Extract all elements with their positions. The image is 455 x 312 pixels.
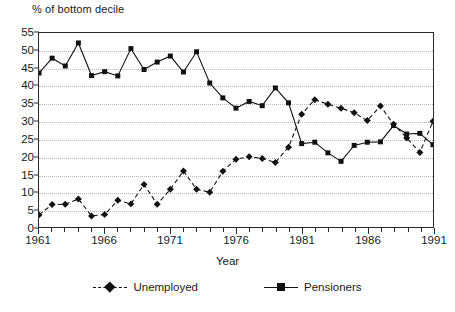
series-canvas: [39, 33, 433, 228]
y-axis-title: % of bottom decile: [32, 3, 124, 15]
square-marker-icon: [277, 283, 285, 291]
data-point-diamond: [62, 201, 69, 208]
x-tick-mark: [381, 228, 382, 232]
x-tick-mark: [210, 228, 211, 232]
x-tick-label: 1976: [223, 234, 249, 246]
data-point-square: [404, 132, 409, 137]
y-tick-label: 25: [4, 133, 34, 145]
data-point-square: [50, 56, 55, 61]
data-point-square: [299, 141, 304, 146]
data-point-diamond: [193, 186, 200, 193]
x-tick-mark: [91, 228, 92, 232]
x-tick-mark: [223, 228, 224, 232]
x-tick-mark: [249, 228, 250, 232]
x-tick-mark: [289, 228, 290, 232]
data-point-square: [312, 140, 317, 145]
x-tick-mark: [342, 228, 343, 232]
y-tick-label: 35: [4, 97, 34, 109]
legend-label-pensioners: Pensioners: [304, 281, 362, 293]
y-tick-label: 0: [4, 222, 34, 234]
y-tick-label: 20: [4, 151, 34, 163]
data-point-square: [207, 81, 212, 86]
y-tick-label: 50: [4, 44, 34, 56]
data-point-square: [391, 123, 396, 128]
x-tick-label: 1971: [157, 234, 183, 246]
data-point-square: [365, 140, 370, 145]
chart-legend: Unemployed Pensioners: [0, 281, 455, 293]
x-tick-mark: [355, 228, 356, 232]
plot-area: [38, 32, 434, 228]
data-point-square: [39, 71, 41, 76]
x-tick-label: 1961: [25, 234, 51, 246]
data-point-square: [430, 142, 432, 147]
data-point-square: [155, 60, 160, 65]
x-tick-mark: [408, 228, 409, 232]
data-point-diamond: [206, 189, 213, 196]
data-point-square: [142, 67, 147, 72]
x-tick-mark: [394, 228, 395, 232]
data-point-diamond: [180, 167, 187, 174]
data-point-square: [168, 54, 173, 59]
data-point-square: [417, 131, 422, 136]
data-point-square: [286, 100, 291, 105]
x-tick-mark: [64, 228, 65, 232]
x-tick-mark: [117, 228, 118, 232]
data-point-square: [63, 63, 68, 68]
data-point-diamond: [114, 197, 121, 204]
data-point-square: [273, 85, 278, 90]
data-point-square: [220, 95, 225, 100]
data-point-diamond: [324, 101, 331, 108]
data-point-diamond: [351, 109, 358, 116]
series-line-pensioners: [39, 43, 433, 161]
x-tick-mark: [196, 228, 197, 232]
legend-label-unemployed: Unemployed: [133, 281, 198, 293]
x-tick-mark: [262, 228, 263, 232]
data-point-square: [325, 150, 330, 155]
x-tick-mark: [51, 228, 52, 232]
data-point-square: [260, 103, 265, 108]
data-point-diamond: [298, 111, 305, 118]
data-point-square: [102, 69, 107, 74]
x-tick-mark: [276, 228, 277, 232]
chart-figure: % of bottom decile 051015202530354045505…: [0, 0, 455, 312]
data-point-square: [233, 106, 238, 111]
x-tick-mark: [157, 228, 158, 232]
x-tick-label: 1991: [421, 234, 447, 246]
data-point-square: [181, 70, 186, 75]
legend-key-unemployed: [93, 281, 127, 293]
x-tick-label: 1981: [289, 234, 315, 246]
data-point-diamond: [377, 103, 384, 110]
diamond-marker-icon: [105, 282, 116, 293]
y-tick-label: 5: [4, 204, 34, 216]
x-tick-mark: [328, 228, 329, 232]
data-point-diamond: [246, 153, 253, 160]
y-tick-label: 10: [4, 186, 34, 198]
data-point-diamond: [141, 181, 148, 188]
y-tick-label: 40: [4, 79, 34, 91]
plot-frame: [38, 32, 434, 228]
y-tick-label: 30: [4, 115, 34, 127]
data-point-square: [339, 159, 344, 164]
x-tick-label: 1966: [91, 234, 117, 246]
data-point-diamond: [416, 149, 423, 156]
x-tick-mark: [421, 228, 422, 232]
data-point-square: [378, 139, 383, 144]
data-point-square: [194, 49, 199, 54]
legend-item-pensioners: Pensioners: [264, 281, 362, 293]
data-point-diamond: [49, 201, 56, 208]
x-tick-label: 1986: [355, 234, 381, 246]
y-tick-label: 15: [4, 169, 34, 181]
data-point-diamond: [154, 201, 161, 208]
data-point-square: [76, 40, 81, 45]
data-point-square: [128, 46, 133, 51]
y-tick-label: 55: [4, 26, 34, 38]
x-tick-mark: [78, 228, 79, 232]
x-tick-mark: [130, 228, 131, 232]
data-point-diamond: [127, 200, 134, 207]
data-point-diamond: [259, 155, 266, 162]
data-point-diamond: [338, 105, 345, 112]
legend-item-unemployed: Unemployed: [93, 281, 198, 293]
data-point-diamond: [429, 118, 432, 125]
x-tick-mark: [183, 228, 184, 232]
x-tick-mark: [315, 228, 316, 232]
